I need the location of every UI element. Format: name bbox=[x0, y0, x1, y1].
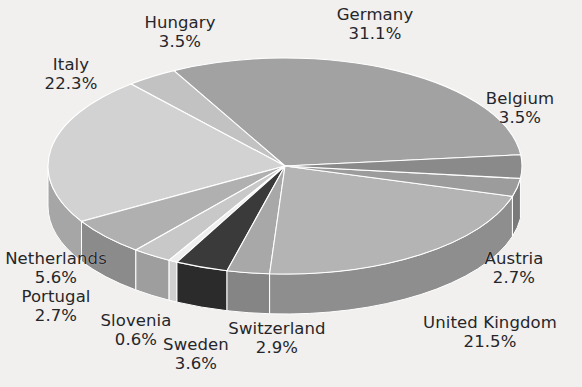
pie-label-united-kingdom: United Kingdom21.5% bbox=[410, 314, 570, 351]
pie-label-sweden: Sweden3.6% bbox=[148, 336, 244, 373]
pie-label-name: Austria bbox=[462, 250, 566, 269]
pie-label-value: 22.3% bbox=[19, 75, 123, 94]
pie-label-name: Italy bbox=[19, 56, 123, 75]
pie-label-italy: Italy22.3% bbox=[19, 56, 123, 93]
pie-label-belgium: Belgium3.5% bbox=[466, 90, 574, 127]
pie-label-hungary: Hungary3.5% bbox=[124, 14, 236, 51]
pie-label-value: 2.7% bbox=[462, 269, 566, 288]
pie-label-name: Netherlands bbox=[0, 250, 112, 269]
pie-label-germany: Germany31.1% bbox=[316, 6, 434, 43]
pie-label-name: Belgium bbox=[466, 90, 574, 109]
pie-label-name: Portugal bbox=[7, 288, 105, 307]
pie-label-value: 21.5% bbox=[410, 333, 570, 352]
pie-label-name: Germany bbox=[316, 6, 434, 25]
pie-label-value: 31.1% bbox=[316, 25, 434, 44]
pie-label-name: Sweden bbox=[148, 336, 244, 355]
pie-label-value: 5.6% bbox=[0, 269, 112, 288]
pie-label-value: 3.5% bbox=[466, 109, 574, 128]
pie-label-value: 3.6% bbox=[148, 355, 244, 374]
pie-label-name: Hungary bbox=[124, 14, 236, 33]
pie-label-name: Slovenia bbox=[84, 312, 188, 331]
pie-chart: Germany31.1%Hungary3.5%Italy22.3%Belgium… bbox=[0, 0, 582, 387]
pie-label-value: 3.5% bbox=[124, 33, 236, 52]
pie-label-name: United Kingdom bbox=[410, 314, 570, 333]
pie-label-austria: Austria2.7% bbox=[462, 250, 566, 287]
pie-label-netherlands: Netherlands5.6% bbox=[0, 250, 112, 287]
